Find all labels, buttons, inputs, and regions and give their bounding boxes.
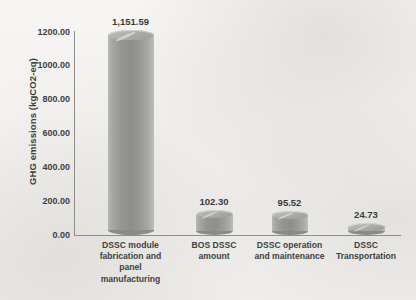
bar-2 xyxy=(196,210,233,235)
category-label-line: amount xyxy=(178,251,250,262)
category-label-line: DSSC operation xyxy=(245,240,335,251)
bar-1 xyxy=(108,30,154,235)
cylinder-top xyxy=(196,210,233,218)
cylinder-top xyxy=(272,211,308,219)
cylinder-top xyxy=(108,30,154,40)
category-label-line: and maintenance xyxy=(245,251,335,262)
category-label-line: manufacturing xyxy=(89,274,173,285)
category-label-line: fabrication and xyxy=(89,251,173,262)
bar-3 xyxy=(272,211,308,235)
cylinder xyxy=(196,210,233,235)
bar-4 xyxy=(348,223,385,235)
ghg-emissions-bar-chart: GHG emissions (kgCO2-eq) 0.00200.00400.0… xyxy=(0,0,416,300)
category-label-line: DSSC xyxy=(328,240,404,251)
x-axis-category-label: DSSC modulefabrication andpanelmanufactu… xyxy=(89,240,173,285)
category-label-line: DSSC module xyxy=(89,240,173,251)
cylinder xyxy=(348,223,385,235)
x-axis-category-label: DSSC operationand maintenance xyxy=(245,240,335,262)
cylinder xyxy=(108,30,154,235)
data-label: 24.73 xyxy=(306,209,416,220)
data-label: 95.52 xyxy=(230,197,350,208)
x-axis-category-label: BOS DSSCamount xyxy=(178,240,250,262)
data-label: 1,151.59 xyxy=(71,16,191,27)
x-axis-category-label: DSSCTransportation xyxy=(328,240,404,262)
category-label-line: BOS DSSC xyxy=(178,240,250,251)
category-label-line: panel xyxy=(89,262,173,273)
cylinder-top xyxy=(348,223,385,231)
category-label-line: Transportation xyxy=(328,251,404,262)
cylinder xyxy=(272,211,308,235)
cylinder-body xyxy=(108,35,154,230)
plot-area: 1,151.59DSSC modulefabrication andpanelm… xyxy=(0,0,416,300)
